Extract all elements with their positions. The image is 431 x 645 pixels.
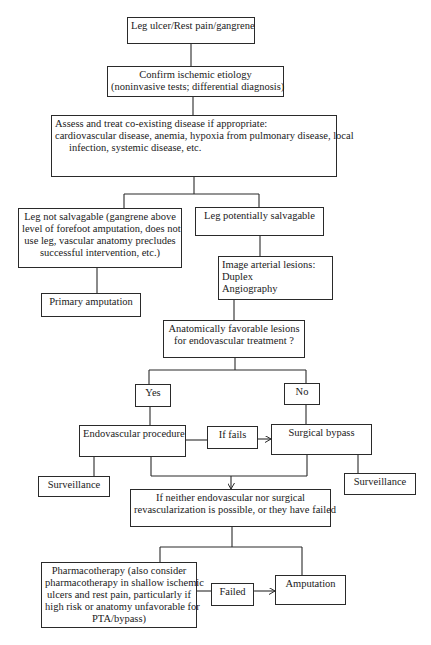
node-text: cardiovascular disease, anemia, hypoxia … bbox=[55, 130, 333, 142]
flowchart-canvas: Leg ulcer/Rest pain/gangrene Confirm isc… bbox=[0, 0, 431, 645]
node-if-neither: If neither endovascular nor surgical rev… bbox=[130, 489, 331, 527]
node-no: No bbox=[284, 383, 320, 405]
node-leg-ulcer: Leg ulcer/Rest pain/gangrene bbox=[127, 17, 255, 44]
node-text: Surveillance bbox=[348, 476, 412, 488]
node-failed: Failed bbox=[211, 583, 254, 606]
node-text: Leg ulcer/Rest pain/gangrene bbox=[131, 20, 251, 32]
node-leg-not-salvagable: Leg not salvagable (gangrene above level… bbox=[18, 208, 182, 268]
node-primary-amputation: Primary amputation bbox=[41, 293, 141, 317]
node-text: Surveillance bbox=[42, 479, 106, 491]
node-text: Amputation bbox=[279, 578, 342, 590]
node-text: If fails bbox=[211, 429, 254, 441]
node-text: Pharmacotherapy (also consider bbox=[45, 565, 193, 577]
node-text: use leg, vascular anatomy precludes bbox=[22, 235, 178, 247]
node-text: Assess and treat co-existing disease if … bbox=[55, 118, 333, 130]
node-text: high risk or anatomy unfavorable for bbox=[45, 601, 193, 613]
node-text: PTA/bypass) bbox=[45, 613, 193, 625]
node-text: for endovascular treatment ? bbox=[167, 335, 301, 347]
node-text: No bbox=[288, 386, 316, 398]
node-yes: Yes bbox=[135, 384, 171, 407]
node-text: Angiography bbox=[222, 283, 329, 295]
node-image-arterial-lesions: Image arterial lesions: Duplex Angiograp… bbox=[218, 256, 333, 300]
node-text: level of forefoot amputation, does not bbox=[22, 223, 178, 235]
node-confirm-ischemic: Confirm ischemic etiology (noninvasive t… bbox=[107, 66, 284, 97]
node-pharmacotherapy: Pharmacotherapy (also consider pharmacot… bbox=[41, 562, 197, 628]
node-text: Surgical bypass bbox=[275, 427, 368, 439]
node-text: pharmacotherapy in shallow ischemic bbox=[45, 577, 193, 589]
node-surveillance-right: Surveillance bbox=[344, 473, 416, 495]
node-assess-treat: Assess and treat co-existing disease if … bbox=[51, 115, 337, 177]
node-text: Confirm ischemic etiology bbox=[111, 69, 280, 81]
node-text: If neither endovascular nor surgical bbox=[134, 492, 327, 504]
node-text: Endovascular procedure bbox=[83, 428, 182, 440]
node-text: (noninvasive tests; differential diagnos… bbox=[111, 81, 280, 93]
node-surgical-bypass: Surgical bypass bbox=[271, 424, 372, 455]
node-anatomically-favorable: Anatomically favorable lesions for endov… bbox=[163, 320, 305, 358]
node-text: Leg potentially salvagable bbox=[199, 210, 320, 222]
node-text: Anatomically favorable lesions bbox=[167, 323, 301, 335]
node-text: Failed bbox=[215, 586, 250, 598]
node-leg-potentially-salvagable: Leg potentially salvagable bbox=[195, 207, 324, 236]
node-text: Yes bbox=[139, 387, 167, 399]
node-text: Leg not salvagable (gangrene above bbox=[22, 211, 178, 223]
node-endovascular-procedure: Endovascular procedure bbox=[79, 425, 186, 457]
node-text: Duplex bbox=[222, 271, 329, 283]
node-amputation: Amputation bbox=[275, 575, 346, 605]
node-text: ulcers and rest pain, particularly if bbox=[45, 589, 193, 601]
node-text: infection, systemic disease, etc. bbox=[55, 142, 333, 154]
node-text: revascularization is possible, or they h… bbox=[134, 504, 327, 516]
node-text: successful intervention, etc.) bbox=[22, 247, 178, 259]
node-if-fails: If fails bbox=[207, 426, 258, 449]
node-surveillance-left: Surveillance bbox=[38, 476, 110, 497]
node-text: Image arterial lesions: bbox=[222, 259, 329, 271]
node-text: Primary amputation bbox=[45, 296, 137, 308]
